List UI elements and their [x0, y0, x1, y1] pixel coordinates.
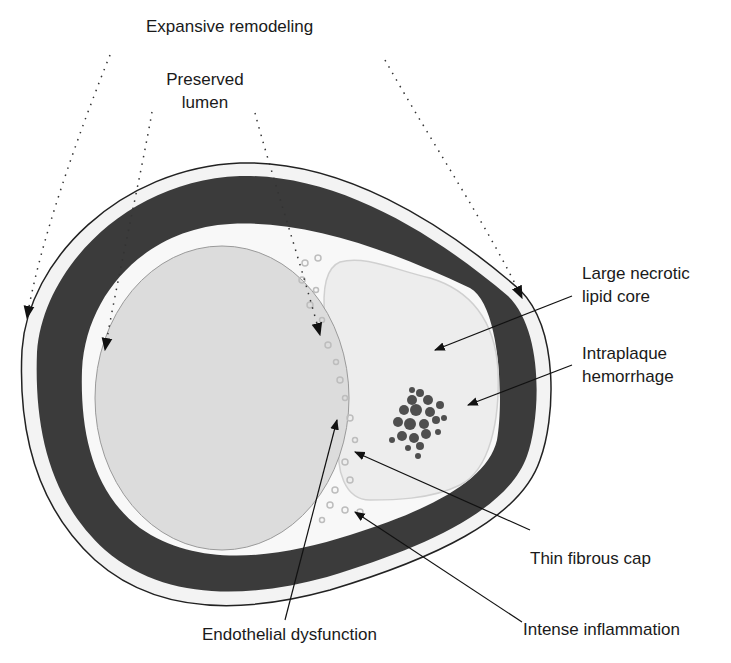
label-fibrous-cap: Thin fibrous cap [530, 547, 651, 570]
label-preserved-lumen: Preserved lumen [155, 68, 255, 114]
label-necrotic-core: Large necrotic lipid core [582, 262, 690, 308]
label-hemorrhage-line2: hemorrhage [582, 365, 674, 388]
lumen [95, 246, 349, 550]
label-expansive-remodeling: Expansive remodeling [146, 15, 313, 38]
label-intense-inflammation: Intense inflammation [523, 618, 680, 641]
label-necrotic-core-line1: Large necrotic [582, 262, 690, 285]
label-hemorrhage-line1: Intraplaque [582, 342, 674, 365]
label-preserved-lumen-line2: lumen [155, 91, 255, 114]
label-hemorrhage: Intraplaque hemorrhage [582, 342, 674, 388]
label-preserved-lumen-line1: Preserved [155, 68, 255, 91]
label-endothelial-dysfunction: Endothelial dysfunction [202, 623, 377, 646]
label-necrotic-core-line2: lipid core [582, 285, 690, 308]
